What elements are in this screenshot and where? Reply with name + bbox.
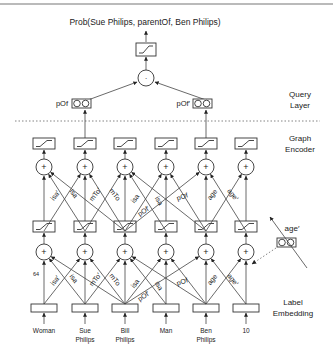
svg-text:Graph: Graph <box>289 134 311 143</box>
embedding-sum-node-0: + <box>36 244 52 260</box>
edge-label: isa <box>130 278 141 289</box>
input-label: Bill <box>121 327 130 334</box>
encoder-top-box-4 <box>195 138 217 149</box>
embedding-sum-node-3: + <box>158 244 174 260</box>
svg-text:age′: age′ <box>285 224 300 233</box>
encoder-sum-node-1: + <box>77 159 93 175</box>
encoder-top-box-1 <box>74 138 96 149</box>
input-label: Woman <box>33 327 56 334</box>
embedding-sum-node-2: + <box>117 244 133 260</box>
svg-text:+: + <box>82 247 87 257</box>
encoder-sum-node-4: + <box>198 159 214 175</box>
svg-text:+: + <box>203 247 208 257</box>
encoder-top-box-3 <box>155 138 177 149</box>
encoder-sum-node-2: + <box>117 159 133 175</box>
encoder-sum-node-0: + <box>36 159 52 175</box>
svg-text:+: + <box>82 162 87 172</box>
svg-text:+: + <box>163 162 168 172</box>
encoder-top-box-0 <box>33 138 55 149</box>
layer-label-query: Query Layer <box>289 90 311 110</box>
svg-text:+: + <box>243 162 248 172</box>
svg-text:Query: Query <box>289 90 311 99</box>
side-relation-age-inverse: age′ <box>252 217 307 268</box>
svg-text:+: + <box>41 162 46 172</box>
label-embedding-box-2 <box>112 304 138 312</box>
edge-label: mTo <box>108 187 122 202</box>
label-embedding-box-0 <box>31 304 57 312</box>
input-label: Ben <box>200 327 212 334</box>
edge-label: mTo′ <box>88 186 103 202</box>
input-label: Sue <box>79 327 91 334</box>
dot-product-node: · <box>138 70 154 86</box>
embedding-sum-node-5: + <box>238 244 254 260</box>
embedding-sum-node-1: + <box>77 244 93 260</box>
diagram-title: Prob(Sue Philips, parentOf, Ben Philips) <box>69 17 220 27</box>
svg-text:+: + <box>41 247 46 257</box>
edge-label: isa <box>154 280 165 291</box>
edge-label: isa <box>68 273 79 284</box>
svg-text:+: + <box>163 247 168 257</box>
input-label: 10 <box>242 327 250 334</box>
diagram-canvas: Prob(Sue Philips, parentOf, Ben Philips)… <box>0 0 333 351</box>
encoder-top-box-2 <box>114 138 136 149</box>
input-label: Man <box>160 327 173 334</box>
encoder-sum-node-5: + <box>238 159 254 175</box>
label-embedding-box-3 <box>153 304 179 312</box>
encoder-sum-node-3: + <box>158 159 174 175</box>
edge-label: pOf <box>176 277 189 288</box>
embedding-sum-node-4: + <box>198 244 214 260</box>
svg-text:pOf: pOf <box>56 99 69 108</box>
encoder-top-box-5 <box>235 138 257 149</box>
label-embedding-box-5 <box>233 304 259 312</box>
edge-label: pOf′ <box>136 289 151 303</box>
svg-text:Encoder: Encoder <box>285 145 315 154</box>
svg-text:+: + <box>203 162 208 172</box>
layer-label-embedding: Label Embedding <box>273 298 313 318</box>
edge-label: age <box>206 188 220 202</box>
query-node-pof: pOf <box>56 99 91 108</box>
svg-text:pOf′: pOf′ <box>177 99 191 108</box>
query-node-pof-inverse: pOf′ <box>177 99 213 108</box>
svg-text:+: + <box>243 247 248 257</box>
input-label: Philips <box>75 336 95 344</box>
layer-label-encoder: Graph Encoder <box>285 134 315 154</box>
dimension-label: 64 <box>33 271 39 277</box>
edge-label: age <box>206 273 220 287</box>
input-label: Philips <box>115 336 135 344</box>
output-sigmoid-box <box>136 43 156 56</box>
input-label: Philips <box>196 336 216 344</box>
edge-label: isa <box>130 193 141 204</box>
svg-text:Layer: Layer <box>290 101 310 110</box>
label-embedding-box-4 <box>193 304 219 312</box>
svg-text:+: + <box>122 162 127 172</box>
svg-text:Embedding: Embedding <box>273 309 313 318</box>
svg-text:·: · <box>145 74 148 83</box>
label-embedding-box-1 <box>72 304 98 312</box>
svg-text:Label: Label <box>283 298 303 307</box>
edge-label: age′ <box>225 187 240 203</box>
svg-text:+: + <box>122 247 127 257</box>
